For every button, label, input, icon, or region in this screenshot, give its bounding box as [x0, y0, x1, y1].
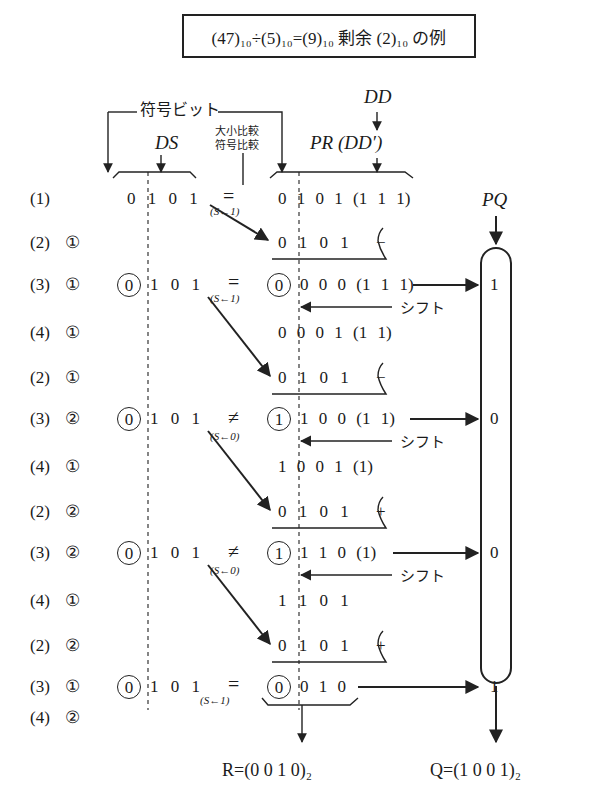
connector-lines [0, 0, 609, 806]
